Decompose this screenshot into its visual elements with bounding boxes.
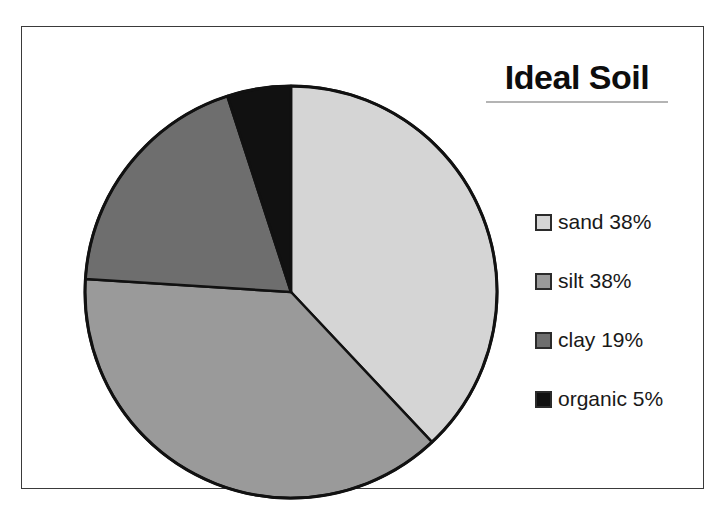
figure-root: Ideal Soil sand 38%silt 38%clay 19%organ… — [0, 0, 719, 512]
legend-item-label: organic 5% — [558, 388, 663, 410]
legend-swatch-icon — [535, 391, 552, 408]
pie-chart — [82, 83, 500, 501]
legend-swatch-icon — [535, 273, 552, 290]
pie-slice-group — [85, 86, 497, 498]
legend-item-label: sand 38% — [558, 211, 651, 233]
legend-item-silt[interactable]: silt 38% — [535, 268, 719, 294]
legend-swatch-icon — [535, 332, 552, 349]
title-underline — [486, 101, 668, 103]
legend-item-organic[interactable]: organic 5% — [535, 386, 719, 412]
legend-item-clay[interactable]: clay 19% — [535, 327, 719, 353]
legend: sand 38%silt 38%clay 19%organic 5% — [535, 209, 719, 412]
chart-frame: Ideal Soil sand 38%silt 38%clay 19%organ… — [21, 26, 704, 489]
legend-item-sand[interactable]: sand 38% — [535, 209, 719, 235]
legend-swatch-icon — [535, 214, 552, 231]
pie-svg — [82, 83, 500, 501]
legend-item-label: clay 19% — [558, 329, 643, 351]
legend-item-label: silt 38% — [558, 270, 632, 292]
